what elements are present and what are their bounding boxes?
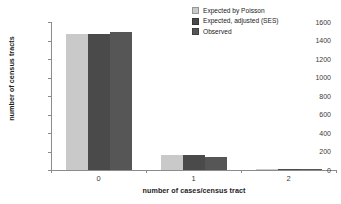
y-tick-label: 400 <box>319 129 331 138</box>
x-tick-mark <box>336 170 337 173</box>
y-tick-label: 600 <box>319 110 331 119</box>
bar <box>183 155 205 170</box>
y-tick-mark <box>48 22 51 23</box>
x-tick-label: 0 <box>96 174 100 184</box>
bar <box>205 157 227 170</box>
bar <box>256 169 278 170</box>
y-tick-mark <box>48 59 51 60</box>
y-tick-mark <box>48 96 51 97</box>
y-tick-label: 1000 <box>315 73 331 82</box>
plot-area: 02004006008001000120014001600 012 <box>51 22 336 170</box>
x-tick-label: 1 <box>191 174 195 184</box>
x-axis-title: number of cases/census tract <box>51 186 337 195</box>
x-tick-mark <box>146 170 147 173</box>
y-tick-mark <box>48 152 51 153</box>
bar <box>161 155 183 170</box>
y-tick-label: 0 <box>327 166 331 175</box>
y-tick-mark <box>48 78 51 79</box>
y-tick-label: 1200 <box>315 55 331 64</box>
bar <box>300 169 322 170</box>
y-tick-label: 800 <box>319 92 331 101</box>
legend-swatch-icon <box>192 7 199 14</box>
bar-chart-figure: Expected by Poisson Expected, adjusted (… <box>0 0 341 204</box>
y-tick-mark <box>48 133 51 134</box>
bar <box>88 34 110 170</box>
bar <box>66 34 88 170</box>
y-tick-label: 1600 <box>315 18 331 27</box>
y-tick-label: 200 <box>319 147 331 156</box>
x-tick-label: 2 <box>286 174 290 184</box>
y-tick-mark <box>48 41 51 42</box>
x-tick-mark <box>51 170 52 173</box>
legend-label: Expected by Poisson <box>203 7 265 15</box>
bar <box>110 32 132 170</box>
y-axis-title: number of census tracts <box>7 24 16 134</box>
x-tick-mark <box>241 170 242 173</box>
bar <box>278 169 300 170</box>
y-tick-mark <box>48 115 51 116</box>
y-tick-label: 1400 <box>315 36 331 45</box>
legend-item-expected-by-poisson: Expected by Poisson <box>192 6 338 15</box>
x-axis-line <box>51 170 337 171</box>
